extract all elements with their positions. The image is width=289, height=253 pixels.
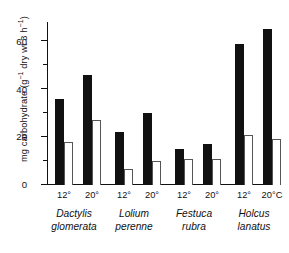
species-label: Holcuslanatus xyxy=(223,208,285,233)
bar-open xyxy=(212,159,221,185)
bar-solid xyxy=(115,132,124,185)
species-name-line1: Festuca xyxy=(163,208,225,221)
bar-solid xyxy=(143,113,152,185)
y-axis-label-mid: dry wt 3 h xyxy=(19,27,29,71)
temp-label: 20° xyxy=(200,190,224,200)
species-name-line1: Holcus xyxy=(223,208,285,221)
y-tick-20 xyxy=(41,136,47,137)
bar-open xyxy=(272,139,281,185)
temp-label: 12° xyxy=(232,190,256,200)
y-tick-minor-50 xyxy=(43,64,47,65)
bar-solid xyxy=(83,75,92,185)
y-tick-minor-30 xyxy=(43,112,47,113)
bar-solid xyxy=(55,99,64,185)
temp-label: 12° xyxy=(172,190,196,200)
species-name-line1: Lolium xyxy=(103,208,165,221)
bar-open xyxy=(124,169,133,185)
temp-label: 12° xyxy=(112,190,136,200)
bar-open xyxy=(92,120,101,185)
y-tick-label-20: 20 xyxy=(5,132,27,142)
y-tick-label-40: 40 xyxy=(5,85,27,95)
species-name-line2: glomerata xyxy=(43,221,105,234)
y-axis-label-sup2: −1 xyxy=(17,19,24,27)
y-axis-label-tail: ) xyxy=(19,16,29,19)
y-tick-label-0: 0 xyxy=(5,180,27,190)
bar-open xyxy=(64,142,73,185)
plot-area: 0204060 12°20°Dactylisglomerata12°20°Lol… xyxy=(47,22,279,185)
temp-label: 20° xyxy=(80,190,104,200)
species-name-line2: rubra xyxy=(163,221,225,234)
species-label: Loliumperenne xyxy=(103,208,165,233)
bar-solid xyxy=(203,144,212,185)
bar-solid xyxy=(263,29,272,185)
y-tick-label-60: 60 xyxy=(5,37,27,47)
y-axis-label-sup1: −1 xyxy=(17,71,24,79)
temp-label: 12° xyxy=(52,190,76,200)
species-name-line2: perenne xyxy=(103,221,165,234)
bar-solid xyxy=(235,44,244,185)
temp-label: 20°C xyxy=(260,190,284,200)
species-label: Dactylisglomerata xyxy=(43,208,105,233)
y-axis-line xyxy=(47,22,48,185)
bar-open xyxy=(184,159,193,185)
y-tick-minor-10 xyxy=(43,160,47,161)
bar-solid xyxy=(175,149,184,185)
temp-label: 20° xyxy=(140,190,164,200)
y-tick-60 xyxy=(41,40,47,41)
y-tick-0 xyxy=(41,184,47,185)
bar-open xyxy=(152,161,161,185)
bar-open xyxy=(244,135,253,185)
species-label: Festucarubra xyxy=(163,208,225,233)
y-tick-40 xyxy=(41,88,47,89)
bar-chart: mg carbohydrate (g−1 dry wt 3 h−1) 02040… xyxy=(0,0,289,253)
species-name-line1: Dactylis xyxy=(43,208,105,221)
species-name-line2: lanatus xyxy=(223,221,285,234)
